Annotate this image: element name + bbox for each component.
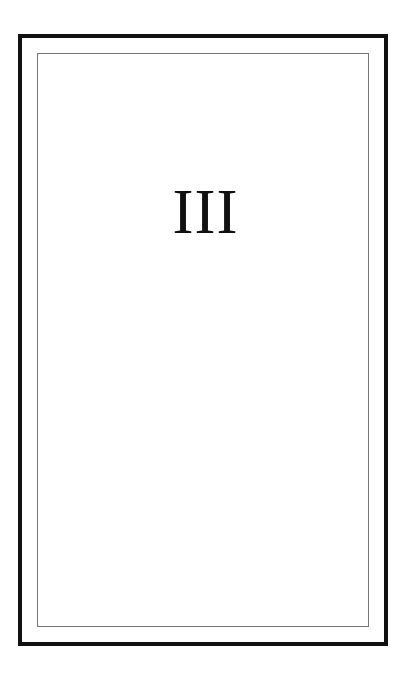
inner-border-frame (37, 53, 369, 627)
roman-numeral-heading: III (0, 172, 411, 252)
